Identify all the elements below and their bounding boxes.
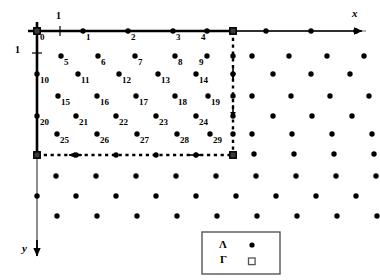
- point-label-17: 17: [139, 98, 148, 107]
- point-label-25: 25: [60, 136, 69, 145]
- lattice-point-on-boundary: [230, 113, 235, 118]
- lattice-point-numbered: [95, 53, 100, 58]
- point-label-11: 11: [81, 76, 90, 85]
- point-label-26: 26: [100, 136, 109, 145]
- lattice-point-numbered: [153, 113, 158, 118]
- lattice-point-numbered: [193, 71, 198, 76]
- lattice-point-numbered: [113, 113, 118, 118]
- lattice-point: [313, 193, 318, 198]
- lattice-point: [233, 193, 238, 198]
- lattice-point-on-boundary: [113, 152, 118, 157]
- lattice-point-numbered: [116, 71, 121, 76]
- lattice-point: [374, 213, 379, 218]
- lattice-point-numbered: [207, 131, 212, 136]
- lattice-point: [273, 193, 278, 198]
- lattice-point: [53, 173, 58, 178]
- lattice-point: [347, 71, 352, 76]
- lattice-point-numbered: [55, 93, 60, 98]
- lattice-point: [369, 131, 374, 136]
- legend-filled-dot-icon: [249, 242, 254, 247]
- lattice-point: [213, 173, 218, 178]
- legend-box: [202, 232, 280, 274]
- legend-lambda-label: Λ: [219, 239, 227, 250]
- lattice-point-numbered: [58, 53, 63, 58]
- figure-canvas: [0, 0, 380, 280]
- y-axis-tick-label-1: 1: [15, 45, 20, 55]
- point-label-24: 24: [199, 118, 208, 127]
- lattice-point: [353, 28, 358, 33]
- point-label-23: 23: [159, 118, 168, 127]
- lattice-point-on-boundary: [193, 152, 198, 157]
- lattice-point: [324, 53, 329, 58]
- lattice-point-on-boundary: [230, 53, 235, 58]
- lattice-point: [54, 213, 59, 218]
- lattice-point: [309, 113, 314, 118]
- lattice-point: [249, 53, 254, 58]
- legend-open-square-icon: [249, 258, 256, 265]
- lattice-point: [270, 113, 275, 118]
- lattice-point-numbered: [94, 131, 99, 136]
- lattice-point: [253, 173, 258, 178]
- lattice-point-on-boundary: [230, 93, 235, 98]
- point-label-0: 0: [40, 33, 45, 42]
- point-label-2: 2: [131, 33, 136, 42]
- lattice-point: [254, 213, 259, 218]
- lattice-point-numbered: [73, 113, 78, 118]
- lattice-point: [263, 28, 268, 33]
- lattice-point: [153, 193, 158, 198]
- lattice-point-numbered: [170, 28, 175, 33]
- lattice-point: [251, 151, 256, 156]
- lattice-point-numbered: [155, 71, 160, 76]
- lattice-point: [270, 71, 275, 76]
- point-label-14: 14: [199, 76, 208, 85]
- point-label-15: 15: [61, 98, 70, 107]
- point-label-19: 19: [211, 98, 220, 107]
- point-label-28: 28: [180, 136, 189, 145]
- lattice-point-numbered: [205, 93, 210, 98]
- bottom-left-corner: [34, 152, 40, 158]
- lattice-point: [331, 151, 336, 156]
- point-label-8: 8: [178, 58, 183, 67]
- lattice-point: [308, 71, 313, 76]
- lattice-point: [353, 193, 358, 198]
- lattice-point: [361, 53, 366, 58]
- legend-gamma-label: Γ: [220, 254, 227, 265]
- lattice-point-on-boundary: [230, 131, 235, 136]
- point-label-9: 9: [199, 58, 204, 67]
- point-label-5: 5: [64, 58, 69, 67]
- lattice-point-numbered: [174, 131, 179, 136]
- lattice-point: [286, 53, 291, 58]
- lattice-point-numbered: [80, 28, 85, 33]
- point-label-20: 20: [40, 118, 49, 127]
- point-label-22: 22: [119, 118, 128, 127]
- lattice-point-numbered: [172, 93, 177, 98]
- lattice-point-on-boundary: [153, 152, 158, 157]
- bottom-right-corner: [230, 152, 236, 158]
- x-axis-tick-label-1: 1: [56, 11, 61, 21]
- lattice-point: [327, 93, 332, 98]
- lattice-point-numbered: [75, 71, 80, 76]
- point-label-16: 16: [100, 98, 109, 107]
- lattice-point: [134, 213, 139, 218]
- point-label-29: 29: [213, 136, 222, 145]
- lattice-point: [34, 193, 39, 198]
- lattice-point-numbered: [172, 53, 177, 58]
- lattice-point: [366, 93, 371, 98]
- lattice-point: [373, 173, 378, 178]
- lattice-point: [349, 113, 354, 118]
- lattice-point-on-boundary: [230, 71, 235, 76]
- lattice-point: [289, 131, 294, 136]
- top-right-corner: [230, 28, 236, 34]
- lattice-figure: x y 1 1 Λ Γ 0123456789101112131415161718…: [0, 0, 380, 280]
- lattice-point: [249, 131, 254, 136]
- lattice-point: [293, 173, 298, 178]
- lattice-point: [93, 173, 98, 178]
- point-label-4: 4: [201, 33, 206, 42]
- lattice-point-numbered: [134, 131, 139, 136]
- lattice-point-numbered: [34, 113, 39, 118]
- lattice-point-numbered: [94, 93, 99, 98]
- lattice-point: [94, 213, 99, 218]
- x-axis-label: x: [352, 8, 358, 19]
- y-axis-label: y: [22, 243, 27, 254]
- lattice-point: [329, 131, 334, 136]
